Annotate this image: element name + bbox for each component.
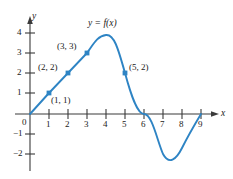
x-tick-label-2: 2 (65, 120, 70, 129)
x-tick-label-8: 8 (179, 120, 184, 129)
y-tick-label-2: 2 (17, 68, 22, 77)
x-tick-label-1: 1 (46, 120, 51, 129)
y-axis-label: y (32, 12, 36, 22)
y-tick-label-1: 1 (17, 88, 22, 97)
x-axis (15, 111, 219, 117)
x-tick-label-6: 6 (141, 120, 146, 129)
origin-label: 0 (22, 118, 27, 127)
function-label: y = f(x) (88, 19, 117, 29)
data-point-markers (47, 51, 128, 96)
x-tick-label-5: 5 (122, 120, 127, 129)
y-tick-label-minus-2: −2 (13, 149, 23, 158)
marker-point-5 (123, 71, 128, 76)
point-label-3-3: (3, 3) (57, 42, 77, 51)
point-label-2-2: (2, 2) (38, 63, 58, 72)
point-label-1-1: (1, 1) (51, 96, 71, 105)
x-tick-label-9: 9 (198, 120, 203, 129)
x-axis-label: x (221, 109, 225, 119)
point-label-5-2: (5, 2) (129, 63, 149, 72)
y-tick-label-3: 3 (17, 48, 22, 57)
y-tick-label-minus-1: −1 (13, 129, 23, 138)
y-tick-label-4: 4 (17, 28, 22, 37)
x-tick-label-4: 4 (103, 120, 108, 129)
marker-point-3 (85, 51, 90, 56)
x-tick-label-3: 3 (84, 120, 89, 129)
graph-figure: y x 0 1 2 3 4 5 6 7 8 9 4 3 2 1 −1 −2 (1… (0, 0, 233, 179)
x-tick-label-7: 7 (160, 120, 165, 129)
marker-point-2 (66, 71, 71, 76)
